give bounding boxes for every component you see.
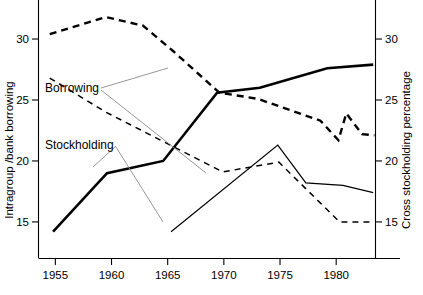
left-tick-label: 25 (16, 94, 29, 106)
annotation-leader (101, 90, 206, 173)
chart-container: 15202530 15202530 1955196019651970197519… (0, 0, 423, 295)
right-axis-ticks: 15202530 (376, 33, 398, 228)
x-tick-label: 1975 (267, 269, 293, 281)
right-tick-label: 15 (385, 216, 398, 228)
series-group (50, 17, 375, 232)
left-axis: 15202530 (16, 0, 38, 258)
right-tick-label: 30 (385, 33, 398, 45)
left-tick-label: 15 (16, 216, 29, 228)
right-axis: 15202530 (376, 0, 398, 258)
annotation-leader (116, 147, 163, 222)
annotation-group: BorrowingStockholding (45, 68, 206, 222)
cropped-caption (0, 289, 423, 295)
left-axis-title: Intragroup /bank borrowing (3, 81, 15, 218)
left-tick-label: 30 (16, 33, 29, 45)
x-tick-label: 1970 (211, 269, 237, 281)
left-tick-label: 20 (16, 155, 29, 167)
x-axis-ticks: 195519601965197019751980 (43, 259, 349, 282)
left-axis-ticks: 15202530 (16, 33, 38, 228)
line-chart: 15202530 15202530 1955196019651970197519… (0, 0, 423, 295)
series-solid-thin (171, 145, 373, 232)
annotation-label: Stockholding (45, 138, 114, 152)
x-tick-label: 1965 (155, 269, 181, 281)
annotation-leader (101, 68, 168, 88)
x-tick-label: 1980 (323, 269, 349, 281)
x-tick-label: 1955 (43, 269, 69, 281)
x-axis: 195519601965197019751980 (39, 259, 401, 282)
series-dashed-thick (50, 17, 375, 140)
right-axis-title: Cross stockholding percentage (400, 71, 412, 229)
right-tick-label: 20 (385, 155, 398, 167)
right-tick-label: 25 (385, 94, 398, 106)
annotation-label: Borrowing (45, 81, 99, 95)
x-tick-label: 1960 (99, 269, 125, 281)
